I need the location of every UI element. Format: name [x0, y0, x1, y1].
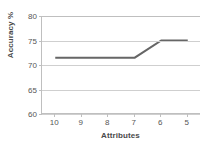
gridline-y — [42, 41, 200, 42]
y-tick-label: 60 — [17, 110, 37, 119]
y-tick-mark — [39, 16, 42, 17]
plot-area — [41, 16, 200, 114]
x-tick-label: 6 — [148, 118, 172, 127]
x-tick-mark — [107, 114, 108, 117]
y-tick-label: 80 — [17, 12, 37, 21]
y-tick-label: 70 — [17, 61, 37, 70]
accuracy-line — [55, 41, 188, 58]
x-axis-title: Attributes — [41, 131, 200, 140]
gridline-y — [42, 90, 200, 91]
y-tick-mark — [39, 90, 42, 91]
y-tick-mark — [39, 41, 42, 42]
x-tick-mark — [134, 114, 135, 117]
y-axis-tick-labels: 6065707580 — [17, 12, 37, 115]
x-tick-label: 9 — [69, 118, 93, 127]
x-tick-label: 8 — [95, 118, 119, 127]
gridline-y-top — [42, 16, 200, 17]
x-tick-mark — [54, 114, 55, 117]
x-tick-mark — [81, 114, 82, 117]
x-axis-tick-labels: 1098765 — [41, 114, 200, 130]
x-tick-label: 10 — [42, 118, 66, 127]
gridline-y — [42, 65, 200, 66]
y-tick-label: 75 — [17, 36, 37, 45]
chart-container: Accuracy % 6065707580 1098765 Attributes — [0, 0, 207, 153]
y-tick-mark — [39, 65, 42, 66]
y-tick-label: 65 — [17, 85, 37, 94]
x-tick-label: 7 — [122, 118, 146, 127]
x-tick-mark — [160, 114, 161, 117]
x-tick-mark — [187, 114, 188, 117]
x-tick-label: 5 — [175, 118, 199, 127]
